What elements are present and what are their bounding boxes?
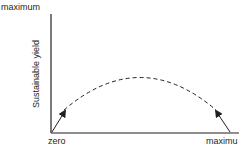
yield-diagram bbox=[0, 0, 239, 153]
left-arrow-icon bbox=[52, 111, 65, 132]
dashed-yield-curve bbox=[64, 78, 216, 111]
right-arrow-icon bbox=[216, 111, 230, 132]
